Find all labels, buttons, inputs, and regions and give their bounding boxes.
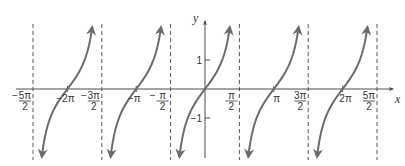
- y-tick-label: −1: [191, 113, 203, 124]
- x-tick-label: 2π: [339, 93, 352, 104]
- x-tick-label: −π: [128, 93, 141, 104]
- fraction-numerator: 5π: [19, 90, 32, 101]
- fraction-denominator: 2: [366, 101, 372, 112]
- fraction-denominator: 2: [297, 101, 303, 112]
- x-tick-label: −2π: [56, 93, 74, 104]
- x-tick-label: −3π2: [81, 90, 100, 112]
- minus-sign: −: [12, 90, 18, 101]
- minus-sign: −: [150, 90, 156, 101]
- fraction-numerator: 3π: [88, 90, 101, 101]
- fraction-denominator: 2: [160, 101, 166, 112]
- fraction-numerator: 3π: [294, 90, 307, 101]
- y-axis-label: y: [192, 11, 199, 25]
- tangent-graph: 1−1−5π2−2π−3π2−π−π2π2π3π22π5π2 x y: [0, 0, 405, 166]
- fraction-numerator: 5π: [363, 90, 376, 101]
- fraction-denominator: 2: [229, 101, 235, 112]
- fraction-denominator: 2: [22, 101, 28, 112]
- y-tick-label: 1: [196, 55, 202, 66]
- x-tick-label: π2: [225, 90, 237, 112]
- x-tick-label: 5π2: [363, 90, 376, 112]
- minus-sign: −: [81, 90, 87, 101]
- x-axis-label: x: [394, 92, 401, 106]
- plot-area: 1−1−5π2−2π−3π2−π−π2π2π3π22π5π2 x y: [0, 0, 405, 166]
- x-tick-label: 3π2: [294, 90, 307, 112]
- fraction-numerator: π: [159, 90, 166, 101]
- fraction-denominator: 2: [91, 101, 97, 112]
- x-tick-label: π: [273, 93, 280, 104]
- fraction-numerator: π: [228, 90, 235, 101]
- x-tick-label: −5π2: [12, 90, 31, 112]
- x-tick-label: −π2: [150, 90, 169, 112]
